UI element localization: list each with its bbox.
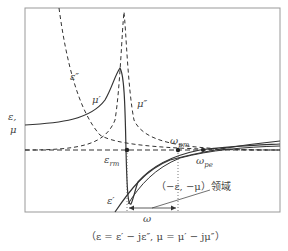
label-eps-imag: ε″ — [70, 72, 79, 82]
label-mu-imag: μ″ — [137, 99, 147, 109]
label-eps-rm: εrm — [104, 155, 119, 168]
caption: （ε = ε′ − jε″, μ = μ′ − jμ″） — [86, 232, 225, 242]
eps-rm-point — [125, 148, 129, 152]
label-mu-real: μ′ — [92, 95, 101, 105]
omega-pe-subscript: pe — [204, 161, 213, 169]
arrow-right-head — [171, 206, 176, 211]
omega-pe-point — [201, 148, 205, 152]
region-label: （−ε, −μ）领域 — [156, 182, 231, 192]
label-omega-pe: ωpe — [196, 156, 213, 169]
omega-pm-symbol: ω — [170, 135, 178, 146]
omega-range-label: ω — [143, 214, 151, 224]
eps-real-curve — [115, 141, 280, 212]
eps-imag-curve — [59, 8, 280, 150]
axis-label-eps: ε, — [8, 112, 17, 122]
region-leader-line — [152, 190, 210, 208]
arrow-left-head — [129, 206, 134, 211]
axis-label-mu: μ — [10, 125, 17, 135]
label-omega-pm: ωpm — [170, 136, 189, 149]
omega-pe-symbol: ω — [196, 155, 204, 166]
plot-frame — [25, 8, 280, 212]
mu-real-curve — [25, 68, 280, 204]
omega-pm-subscript: pm — [178, 141, 189, 149]
eps-rm-subscript: rm — [109, 160, 119, 168]
label-eps-real: ε′ — [107, 196, 115, 206]
